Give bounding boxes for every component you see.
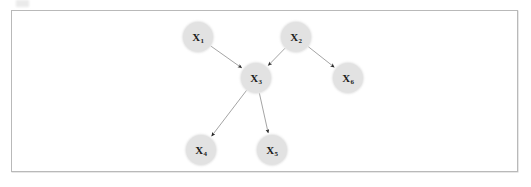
- graph-edge-x1-to-x3: [211, 46, 242, 68]
- graph-node-x5[interactable]: X5: [257, 135, 287, 165]
- graph-node-label: X1: [192, 32, 203, 43]
- graph-edge-x2-to-x6: [308, 47, 334, 68]
- graph-node-x1[interactable]: X1: [183, 22, 213, 52]
- graph-node-label: X5: [266, 145, 277, 156]
- graph-node-x4[interactable]: X4: [186, 135, 216, 165]
- graph-node-label: X3: [250, 73, 261, 84]
- graph-edge-x2-to-x3: [268, 48, 285, 65]
- graph-node-label: X4: [195, 145, 206, 156]
- graph-node-label: X6: [342, 73, 353, 84]
- graph-edge-x3-to-x5: [259, 93, 268, 133]
- graph-node-x3[interactable]: X3: [241, 63, 271, 93]
- graph-edge-x3-to-x4: [212, 90, 247, 136]
- graph-node-label: X2: [290, 32, 301, 43]
- figure-root: X1X2X3X6X4X5: [0, 0, 531, 187]
- graph-node-x2[interactable]: X2: [281, 22, 311, 52]
- graph-node-x6[interactable]: X6: [333, 63, 363, 93]
